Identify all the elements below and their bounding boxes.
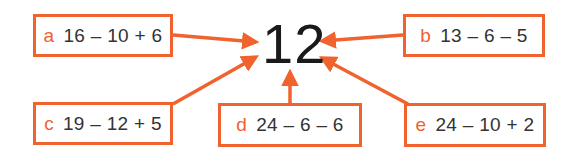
option-expression: 13 – 6 – 5	[440, 25, 528, 47]
option-box-a[interactable]: a 16 – 10 + 6	[33, 14, 173, 57]
option-expression: 16 – 10 + 6	[63, 25, 162, 47]
option-letter: a	[44, 25, 55, 47]
option-letter: e	[416, 114, 427, 136]
arrow-b	[322, 35, 403, 41]
arrow-c	[173, 57, 256, 104]
option-expression: 24 – 6 – 6	[256, 114, 344, 136]
target-number: 12	[262, 14, 326, 74]
arrow-e	[322, 58, 408, 104]
option-letter: c	[44, 113, 54, 135]
arrow-a	[173, 35, 256, 42]
option-expression: 24 – 10 + 2	[435, 114, 534, 136]
option-box-e[interactable]: e 24 – 10 + 2	[404, 103, 546, 147]
option-expression: 19 – 12 + 5	[63, 113, 162, 135]
option-box-d[interactable]: d 24 – 6 – 6	[218, 103, 362, 147]
option-letter: d	[236, 114, 247, 136]
option-box-c[interactable]: c 19 – 12 + 5	[33, 102, 173, 145]
option-box-b[interactable]: b 13 – 6 – 5	[403, 14, 545, 57]
option-letter: b	[420, 25, 431, 47]
